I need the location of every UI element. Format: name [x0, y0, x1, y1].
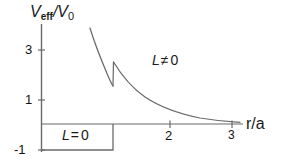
y-tick-label-minus-1: -1 [14, 143, 26, 156]
annotation-l-nonzero-symbol: L [152, 52, 160, 68]
y-tick-label-3: 3 [25, 43, 32, 56]
curve-l-nonzero-inner [90, 28, 113, 86]
y-axis-title: Veff/V0 [30, 4, 74, 20]
x-tick-label-3: 3 [228, 129, 235, 141]
y-axis-title-subscript-eff: eff [41, 11, 53, 22]
curve-l-nonzero-tail [114, 62, 241, 122]
annotation-l-zero-operator: = [70, 127, 80, 143]
annotation-l-zero-value: 0 [80, 127, 90, 143]
potential-plot [0, 0, 285, 165]
curve-l-nonzero-discontinuity [113, 62, 114, 86]
y-axis-title-divider: /V [53, 3, 68, 20]
annotation-l-zero-symbol: L [62, 127, 70, 143]
y-axis-title-v: V [30, 3, 41, 20]
y-axis-title-subscript-zero: 0 [68, 10, 74, 22]
y-tick-label-1: 1 [25, 93, 32, 106]
annotation-l-nonzero-value: 0 [169, 52, 179, 68]
annotation-l-zero: L=0 [62, 128, 90, 142]
annotation-l-nonzero: L≠0 [152, 53, 179, 67]
x-axis-title: r/a [246, 116, 265, 132]
x-tick-label-2: 2 [165, 129, 172, 142]
